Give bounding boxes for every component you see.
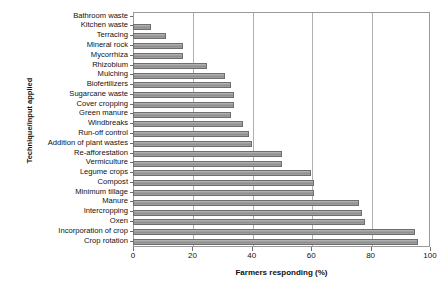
bar-row: Oxen [133, 217, 430, 227]
category-label: Crop rotation [84, 236, 128, 245]
x-tick-label: 0 [131, 251, 135, 260]
category-label: Mycorrhiza [91, 50, 128, 59]
bar-row: Mycorrhiza [133, 51, 430, 61]
category-label: Addition of plant wastes [48, 138, 128, 147]
category-label: Oxen [110, 216, 128, 225]
category-label: Rhizobium [92, 60, 128, 69]
bar [133, 121, 243, 127]
bar [133, 73, 225, 79]
bar [133, 112, 231, 118]
bar-row: Biofertilizers [133, 80, 430, 90]
bar-row: Legume crops [133, 169, 430, 179]
bar-row: Rhizobium [133, 61, 430, 71]
bar-row: Mulching [133, 71, 430, 81]
bar [133, 180, 314, 186]
category-label: Run-off control [78, 128, 128, 137]
x-tick-label: 60 [307, 251, 316, 260]
bar-row: Bathroom waste [133, 12, 430, 22]
bar [133, 102, 234, 108]
bar [133, 161, 282, 167]
x-tick-label: 100 [423, 251, 436, 260]
category-label: Intercropping [84, 206, 128, 215]
category-label: Mulching [98, 69, 128, 78]
bar [133, 170, 311, 176]
bar-row: Incorporation of crop [133, 227, 430, 237]
bar-row: Green manure [133, 110, 430, 120]
category-label: Incorporation of crop [58, 226, 128, 235]
bar [133, 53, 183, 59]
category-label: Manure [102, 196, 128, 205]
category-label: Mineral rock [87, 40, 128, 49]
bar [133, 43, 183, 49]
x-axis-title: Farmers responding (%) [133, 268, 430, 277]
bar [133, 24, 151, 30]
y-axis-tick [130, 16, 133, 17]
y-axis-title: Technique/input applied [25, 36, 34, 206]
category-label: Sugarcane waste [69, 89, 128, 98]
bar-row: Mineral rock [133, 41, 430, 51]
bar-row: Re-afforestation [133, 149, 430, 159]
category-label: Terracing [97, 30, 128, 39]
bar [133, 219, 365, 225]
x-tick-label: 80 [366, 251, 375, 260]
category-label: Kitchen waste [81, 20, 128, 29]
x-axis-ticks: 020406080100 [133, 247, 430, 257]
bar-row: Compost [133, 178, 430, 188]
bar [133, 33, 166, 39]
bar [133, 151, 282, 157]
bar [133, 141, 252, 147]
category-label: Vermiculture [86, 157, 128, 166]
category-label: Green manure [79, 108, 128, 117]
chart-container: Technique/input applied Bathroom wasteKi… [0, 0, 442, 288]
bar [133, 210, 362, 216]
bar [133, 131, 249, 137]
bar-row: Kitchen waste [133, 22, 430, 32]
category-label: Windbreaks [88, 118, 128, 127]
bar-row: Cover cropping [133, 100, 430, 110]
category-label: Cover cropping [77, 99, 129, 108]
bar [133, 229, 415, 235]
bar-row: Terracing [133, 32, 430, 42]
category-label: Re-afforestation [74, 148, 128, 157]
bar-row: Sugarcane waste [133, 90, 430, 100]
bar [133, 200, 359, 206]
bar-row: Windbreaks [133, 120, 430, 130]
bar-row: Intercropping [133, 208, 430, 218]
x-tick-label: 40 [247, 251, 256, 260]
bar-row: Manure [133, 198, 430, 208]
category-label: Biofertilizers [87, 79, 128, 88]
bar-row: Vermiculture [133, 159, 430, 169]
bar-row: Minimum tillage [133, 188, 430, 198]
bar-row: Addition of plant wastes [133, 139, 430, 149]
bar-row: Crop rotation [133, 237, 430, 247]
bar-rows: Bathroom wasteKitchen wasteTerracingMine… [133, 12, 430, 247]
category-label: Legume crops [80, 167, 128, 176]
bar [133, 92, 234, 98]
category-label: Bathroom waste [73, 11, 128, 20]
category-label: Compost [98, 177, 128, 186]
bar-row: Run-off control [133, 129, 430, 139]
category-label: Minimum tillage [75, 187, 128, 196]
x-tick-label: 20 [188, 251, 197, 260]
bar [133, 190, 314, 196]
bar [133, 63, 207, 69]
bar [133, 239, 418, 245]
bar [133, 82, 231, 88]
